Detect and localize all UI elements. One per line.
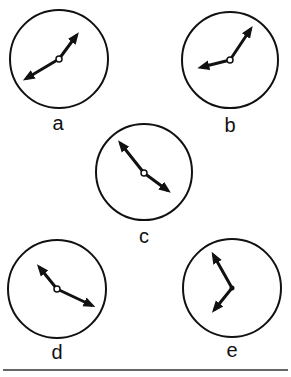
clock-label: d — [51, 341, 62, 363]
clock-hub — [230, 286, 235, 291]
clock-b: b — [182, 12, 278, 136]
clock-hub — [227, 57, 233, 63]
clock-label: e — [226, 339, 237, 361]
clock-c: c — [96, 124, 192, 247]
clock-label: c — [139, 225, 149, 247]
clock-hub — [141, 170, 147, 176]
clock-e: e — [183, 239, 281, 361]
clock-label: a — [52, 112, 64, 134]
clock-d: d — [8, 240, 106, 363]
clock-hub — [54, 286, 60, 292]
clock-hub — [56, 56, 62, 62]
clock-label: b — [224, 114, 235, 136]
clock-figure: a b c d e — [0, 0, 291, 377]
clock-a: a — [10, 10, 108, 134]
